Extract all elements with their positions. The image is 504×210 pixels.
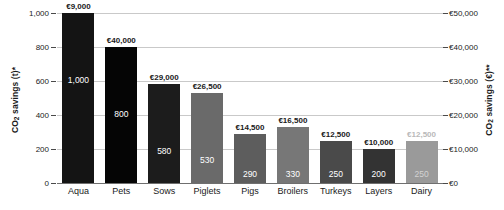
bar-euro-label: €12,500 xyxy=(387,130,457,139)
y-tick-mark-right xyxy=(443,13,448,14)
y-tick-mark-right xyxy=(443,47,448,48)
y-axis-title-right-subscript: 2 xyxy=(487,119,494,123)
bar-euro-label: €40,000 xyxy=(86,36,156,45)
bar-euro-label: €26,500 xyxy=(172,82,242,91)
bar-value-label: 330 xyxy=(277,169,309,179)
y-tick-label-left: 0 xyxy=(3,179,49,188)
bar-value-label: 250 xyxy=(320,169,352,179)
y-tick-label-left: 200 xyxy=(3,145,49,154)
bar-layers[interactable]: 200 xyxy=(363,149,395,183)
y-tick-mark-left xyxy=(51,13,56,14)
y-axis-title-left-main: CO xyxy=(10,120,20,133)
bar-value-label: 1,000 xyxy=(62,75,94,85)
y-tick-mark-right xyxy=(443,149,448,150)
bar-chart: CO2 savings (t)* CO2 savings (€)** 02004… xyxy=(0,0,504,210)
y-tick-mark-right xyxy=(443,115,448,116)
y-tick-mark-right xyxy=(443,183,448,184)
y-axis-title-left: CO2 savings (t)* xyxy=(10,52,20,148)
x-tick-label: Dairy xyxy=(387,186,457,196)
bar-pets[interactable]: 800 xyxy=(105,47,137,183)
bar-value-label: 800 xyxy=(105,109,137,119)
y-tick-mark-left xyxy=(51,183,56,184)
y-tick-mark-left xyxy=(51,81,56,82)
bar-sows[interactable]: 580 xyxy=(148,84,180,183)
y-tick-label-left: 1,000 xyxy=(3,9,49,18)
bar-value-label: 580 xyxy=(148,146,180,156)
y-tick-label-right: €20,000 xyxy=(449,111,501,120)
y-tick-mark-left xyxy=(51,47,56,48)
y-tick-label-right: €10,000 xyxy=(449,145,501,154)
gridline xyxy=(57,183,443,184)
y-tick-label-right: €50,000 xyxy=(449,9,501,18)
bar-value-label: 250 xyxy=(406,169,438,179)
y-tick-mark-right xyxy=(443,81,448,82)
gridline xyxy=(57,13,443,14)
bar-piglets[interactable]: 530 xyxy=(191,93,223,183)
bar-euro-label: €10,000 xyxy=(344,138,414,147)
y-tick-label-right: €30,000 xyxy=(449,77,501,86)
y-axis-title-left-rest: savings (t)* xyxy=(10,67,20,116)
bar-pigs[interactable]: 290 xyxy=(234,134,266,183)
y-axis-title-right: CO2 savings (€)** xyxy=(484,52,494,148)
bar-value-label: 290 xyxy=(234,169,266,179)
y-tick-mark-left xyxy=(51,149,56,150)
bar-euro-label: €9,000 xyxy=(43,2,113,11)
y-tick-label-left: 600 xyxy=(3,77,49,86)
y-tick-label-left: 800 xyxy=(3,43,49,52)
bar-euro-label: €16,500 xyxy=(258,116,328,125)
y-tick-label-right: €0 xyxy=(449,179,501,188)
bar-value-label: 200 xyxy=(363,169,395,179)
y-tick-label-right: €40,000 xyxy=(449,43,501,52)
y-axis-title-right-main: CO xyxy=(484,123,494,136)
y-tick-mark-left xyxy=(51,115,56,116)
bar-value-label: 530 xyxy=(191,155,223,165)
y-tick-label-left: 400 xyxy=(3,111,49,120)
